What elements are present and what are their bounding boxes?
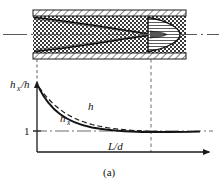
curve-hx-label: h x: [60, 112, 71, 127]
ytick-one-label: 1: [24, 125, 30, 137]
y-axis-label-base: h: [10, 78, 16, 90]
curve-hx-label-base: h: [60, 112, 66, 124]
figure-caption: (a): [103, 166, 116, 179]
figure-container: h x /h 1 h h x L/d (a): [0, 0, 222, 192]
y-axis-label-rest: /h: [20, 78, 30, 90]
y-axis-label: h x /h: [10, 78, 30, 93]
curve-hx: [39, 88, 200, 132]
curve-hx-label-subscript: x: [66, 118, 71, 127]
curve-h: [39, 87, 200, 132]
x-axis-label: L/d: [107, 140, 123, 152]
pipe-wall-bottom: [33, 53, 186, 59]
entrance-length-figure: h x /h 1 h h x L/d (a): [0, 0, 222, 192]
pipe-diagram: [3, 10, 219, 59]
pipe-wall-top: [33, 10, 186, 16]
curve-h-label: h: [88, 100, 94, 112]
